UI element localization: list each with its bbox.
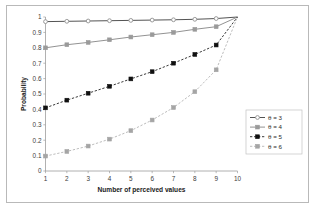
legend-marker [256,135,260,139]
legend-marker [256,144,260,148]
x-axis-title: Number of perceived values [98,186,186,194]
data-point [193,53,197,57]
data-point [86,19,90,23]
data-point [108,137,112,141]
data-point [150,18,154,22]
y-axis-title: Probability [20,77,28,111]
x-tick-label: 5 [129,175,133,182]
x-tick-label: 7 [172,175,176,182]
data-point [44,46,48,50]
legend-marker [256,116,260,120]
x-tick-label: 10 [234,175,242,182]
series-line [46,17,238,156]
data-point [108,84,112,88]
data-point [129,129,133,133]
data-point [44,20,48,24]
data-point [193,17,197,21]
x-tick-label: 9 [214,175,218,182]
data-point [129,77,133,81]
data-point [44,154,48,158]
x-tick-label: 8 [193,175,197,182]
data-point [65,98,69,102]
data-point [214,68,218,72]
x-tick-label: 4 [108,175,112,182]
data-point [129,35,133,39]
legend-label: θ = 5 [268,133,282,140]
legend-label: θ = 4 [268,123,282,130]
series-line [46,17,238,108]
legend-label: θ = 3 [268,114,282,121]
data-point [129,18,133,22]
y-tick-label: 1 [38,13,42,20]
x-tick-label: 6 [150,175,154,182]
line-chart-plot: 00.10.20.30.40.50.60.70.80.9112345678910… [0,0,317,212]
y-tick-label: 0.6 [33,75,42,82]
y-tick-label: 0.2 [33,137,42,144]
data-point [150,70,154,74]
data-point [108,38,112,42]
x-tick-label: 1 [44,175,48,182]
data-point [214,43,218,47]
legend-marker [256,125,260,129]
y-tick-label: 0.7 [33,60,42,67]
data-point [86,144,90,148]
data-point [150,33,154,37]
data-point [214,17,218,21]
series-line [46,17,238,22]
y-tick-label: 0.1 [33,152,42,159]
legend: θ = 3θ = 4θ = 5θ = 6 [246,110,302,154]
data-point [172,18,176,22]
data-point [65,43,69,47]
data-point [193,90,197,94]
series-1 [44,17,238,24]
chart-figure: 00.10.20.30.40.50.60.70.80.9112345678910… [0,0,317,212]
data-point [172,31,176,35]
data-point [172,61,176,65]
series-4 [44,17,238,158]
data-point [86,91,90,95]
y-tick-label: 0.3 [33,121,42,128]
data-point [86,41,90,45]
legend-label: θ = 6 [268,143,282,150]
series-3 [44,17,238,110]
data-point [150,118,154,122]
x-tick-label: 3 [86,175,90,182]
data-point [65,19,69,23]
data-point [44,106,48,110]
data-point [172,106,176,110]
data-point [65,150,69,154]
data-point [214,25,218,29]
x-tick-label: 2 [65,175,69,182]
y-tick-label: 0.5 [33,90,42,97]
series-2 [44,17,238,50]
data-point [108,19,112,23]
y-tick-label: 0.8 [33,44,42,51]
data-point [193,27,197,31]
y-tick-label: 0.4 [33,106,42,113]
y-tick-label: 0 [38,167,42,174]
y-tick-label: 0.9 [33,29,42,36]
